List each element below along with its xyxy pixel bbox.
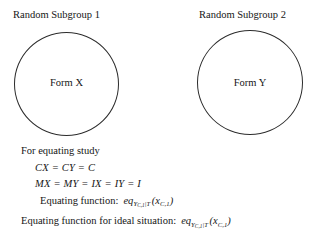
eq-subscript: YC,1 (133, 196, 144, 214)
group-label-subgroup-1: Random Subgroup 1 (13, 9, 100, 21)
eq-subscript-inner: C,1 (137, 202, 145, 208)
eq-argument: (xC,1) (208, 215, 231, 226)
form-label-x: Form X (15, 77, 118, 89)
diagram-canvas: Random Subgroup 1 Random Subgroup 2 Form… (0, 0, 316, 242)
eq-argument-close: ) (170, 195, 174, 206)
equating-function-expression: eqYC,1|T(xC,1) (123, 193, 173, 214)
form-label-y: Form Y (198, 77, 302, 89)
form-circle-y: Form Y (197, 30, 303, 135)
eq-argument-subscript: C,1 (218, 217, 228, 234)
eq-subscript: YC,1 (191, 217, 202, 235)
equations-block: For equating study CX = CY = C MX = MY =… (0, 143, 316, 234)
ideal-function-expression: eqYC,1|T(xC,1) (181, 213, 231, 234)
equating-function-line: Equating function:eqYC,1|T(xC,1) (0, 193, 316, 214)
eq-subscript-inner: C,1 (195, 223, 203, 229)
eq-operator: eq (123, 195, 133, 206)
equating-function-prefix: Equating function: (40, 195, 118, 206)
equation-measurement: MX = MY = IX = IY = I (0, 176, 316, 193)
equations-heading: For equating study (0, 143, 316, 160)
ideal-function-line: Equating function for ideal situation:eq… (0, 213, 316, 234)
eq-argument-close: ) (227, 215, 231, 226)
form-circle-x: Form X (14, 32, 119, 136)
eq-operator: eq (181, 215, 191, 226)
eq-argument-subscript: C,1 (160, 196, 170, 213)
ideal-function-prefix: Equating function for ideal situation: (21, 215, 176, 226)
equation-conditions: CX = CY = C (0, 160, 316, 177)
group-label-subgroup-2: Random Subgroup 2 (199, 9, 286, 21)
eq-argument: (xC,1) (150, 195, 173, 206)
